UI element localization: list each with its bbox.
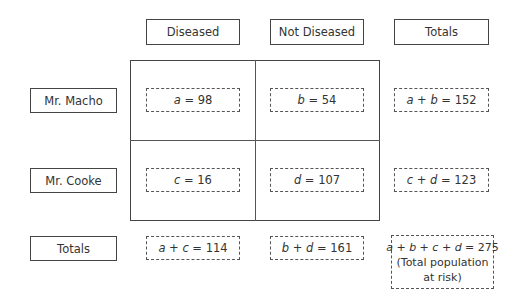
cell-b-value: = 54 — [305, 93, 337, 107]
var-b: b — [282, 241, 289, 255]
col-total-diseased-value: = 114 — [189, 241, 228, 255]
cell-b: b = 54 — [270, 88, 364, 112]
row-label-mr-cooke: Mr. Cooke — [30, 168, 117, 193]
grand-total: a + b + c + d = 275 (Total population at… — [391, 235, 494, 289]
cell-c-value: = 16 — [180, 173, 212, 187]
plus-operator: + — [413, 93, 430, 107]
plus-operator: + — [393, 241, 409, 254]
var-d: d — [455, 241, 462, 254]
cell-a-value: = 98 — [181, 93, 213, 107]
header-totals: Totals — [394, 19, 489, 45]
cell-c: c = 16 — [146, 168, 240, 192]
cell-d-value: = 107 — [301, 173, 340, 187]
grand-total-note-line1: (Total population — [396, 255, 488, 270]
row-total-cooke: c + d = 123 — [394, 168, 489, 192]
header-not-diseased: Not Diseased — [270, 19, 364, 45]
plus-operator: + — [416, 241, 432, 254]
cell-d: d = 107 — [270, 168, 364, 192]
row-label-mr-macho: Mr. Macho — [30, 88, 117, 113]
var-a: a — [174, 93, 181, 107]
col-total-not-diseased-value: = 161 — [313, 241, 352, 255]
plus-operator: + — [438, 241, 454, 254]
var-b: b — [298, 93, 305, 107]
col-total-diseased: a + c = 114 — [146, 236, 240, 260]
header-diseased: Diseased — [146, 19, 240, 45]
var-b: b — [430, 93, 437, 107]
plus-operator: + — [289, 241, 306, 255]
plus-operator: + — [413, 173, 430, 187]
row-total-macho-value: = 152 — [438, 93, 477, 107]
plus-operator: + — [165, 241, 182, 255]
grid-horizontal-divider — [130, 140, 380, 141]
cell-a: a = 98 — [146, 88, 240, 112]
row-label-totals: Totals — [30, 236, 117, 261]
grand-total-note-line2: at risk) — [423, 270, 462, 285]
col-total-not-diseased: b + d = 161 — [270, 236, 364, 260]
row-total-cooke-value: = 123 — [437, 173, 476, 187]
grand-total-value: = 275 — [462, 241, 499, 254]
grand-total-equation: a + b + c + d = 275 — [386, 240, 499, 255]
row-total-macho: a + b = 152 — [394, 88, 489, 112]
var-a: a — [386, 241, 393, 254]
